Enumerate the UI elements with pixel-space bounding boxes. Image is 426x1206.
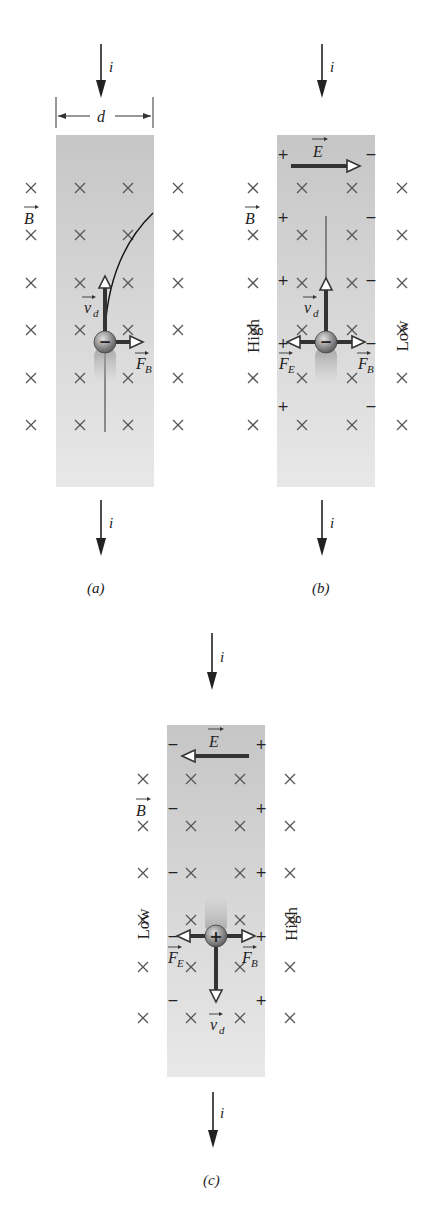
field-into-page-icon [138,962,148,972]
svg-text:−: − [99,333,112,351]
field-into-page-icon [285,962,295,972]
svg-text:E: E [287,363,295,375]
surface-charge: + [255,800,267,816]
field-into-page-icon [138,1013,148,1023]
current-label: i [109,59,113,75]
field-into-page-icon [285,868,295,878]
surface-charge: + [277,146,289,162]
surface-charge: + [277,272,289,288]
current-arrow-out: i [96,500,113,556]
field-into-page-icon [285,774,295,784]
svg-text:i: i [330,515,334,531]
svg-text:B: B [367,363,374,375]
current-arrow-out: i [208,1092,224,1148]
surface-charge: + [255,992,267,1008]
field-into-page-icon [138,774,148,784]
field-into-page-icon [397,420,407,430]
field-into-page-icon [138,821,148,831]
width-label: d [97,108,106,125]
field-into-page-icon [248,373,258,383]
svg-text:E: E [208,733,219,750]
field-into-page-icon [397,230,407,240]
svg-text:E: E [176,957,184,969]
surface-charge: − [365,398,377,414]
current-arrow-in: i [207,633,224,690]
panel-b: i +++++ −−−−− E B v d [244,44,412,597]
field-into-page-icon [26,325,36,335]
svg-text:i: i [109,515,113,531]
width-dimension: d [56,97,153,128]
svg-text:i: i [220,1105,224,1121]
field-label-b: B [245,205,260,227]
surface-charge: − [365,146,377,162]
field-into-page-icon [26,230,36,240]
field-into-page-icon [248,278,258,288]
potential-label-right: High [282,907,301,942]
potential-label-left: High [244,319,263,354]
panel-label-a: (a) [87,580,105,597]
hall-effect-diagram: i d B [0,0,426,1206]
field-into-page-icon [26,183,36,193]
field-into-page-icon [397,373,407,383]
field-into-page-icon [173,230,183,240]
svg-text:v: v [210,1016,218,1033]
field-into-page-icon [397,278,407,288]
current-arrow-out: i [317,500,334,556]
surface-charge: + [255,736,267,752]
potential-label-left: Low [134,908,153,940]
svg-text:B: B [136,802,146,819]
field-into-page-icon [285,1013,295,1023]
svg-text:B: B [145,363,152,375]
field-into-page-icon [138,868,148,878]
field-into-page-icon [173,183,183,193]
potential-label-right: Low [393,320,412,352]
surface-charge: − [167,864,179,880]
surface-charge: + [277,209,289,225]
surface-charge: − [167,992,179,1008]
svg-text:v: v [84,299,92,316]
field-into-page-icon [397,183,407,193]
current-arrow-in: i [96,44,113,98]
field-into-page-icon [173,373,183,383]
svg-text:B: B [251,957,258,969]
current-arrow-in: i [317,44,334,98]
surface-charge: − [365,335,377,351]
surface-charge: + [255,864,267,880]
panel-a: i d B [24,44,183,597]
field-into-page-icon [26,420,36,430]
charge-carrier-positive: + [205,925,227,947]
field-into-page-icon [248,183,258,193]
field-label-b: B [136,797,151,819]
field-into-page-icon [26,278,36,288]
field-into-page-icon [248,230,258,240]
svg-text:d: d [313,307,319,319]
svg-text:d: d [93,307,99,319]
surface-charge: + [277,335,289,351]
surface-charge: − [365,209,377,225]
surface-charge: − [167,800,179,816]
surface-charge: − [167,736,179,752]
surface-charge: + [277,398,289,414]
field-into-page-icon [173,278,183,288]
svg-text:v: v [304,299,312,316]
svg-text:i: i [330,59,334,75]
svg-text:+: + [209,927,222,946]
panel-label-b: (b) [312,580,330,597]
field-into-page-icon [248,420,258,430]
panel-label-c: (c) [203,1172,220,1189]
panel-c: i −−−−− +++++ E B v d [134,633,301,1189]
field-into-page-icon [26,373,36,383]
svg-text:−: − [320,333,333,351]
field-into-page-icon [285,821,295,831]
svg-text:B: B [245,210,255,227]
field-into-page-icon [173,325,183,335]
svg-text:i: i [220,649,224,665]
field-into-page-icon [173,420,183,430]
svg-text:d: d [219,1024,225,1036]
svg-text:B: B [24,210,34,227]
charge-carrier-electron: − [315,331,337,353]
surface-charge: − [365,272,377,288]
svg-text:E: E [312,143,323,160]
charge-carrier-electron: − [94,331,116,353]
field-label-b: B [24,205,39,227]
